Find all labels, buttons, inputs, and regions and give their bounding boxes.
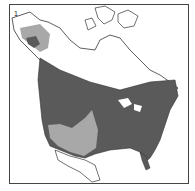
arctic-islands (85, 6, 138, 30)
range-map (0, 0, 195, 191)
